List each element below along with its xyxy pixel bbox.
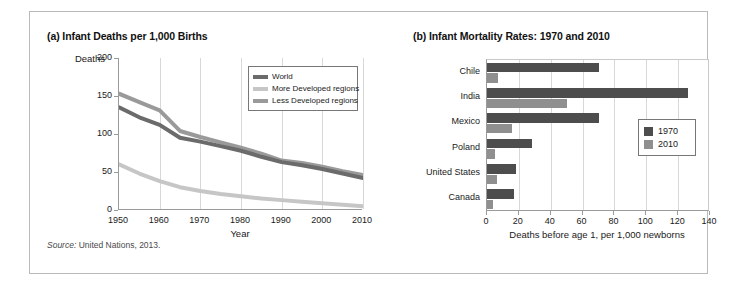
bar-category-label: United States xyxy=(394,167,480,177)
bar-category-label: Canada xyxy=(394,192,480,202)
legend-label: 2010 xyxy=(658,139,678,149)
bar-x-tick-label: 120 xyxy=(664,216,690,226)
bar-x-tick-label: 40 xyxy=(537,216,563,226)
legend-item: Less Developed regions xyxy=(253,95,353,106)
y-tick-label: 50 xyxy=(86,166,112,176)
bar-x-tick-label: 140 xyxy=(696,216,722,226)
x-axis-title: Year xyxy=(230,228,249,239)
panel-a-title: (a) Infant Deaths per 1,000 Births xyxy=(47,30,208,42)
y-tick-label: 200 xyxy=(86,52,112,62)
bar-category-label: Mexico xyxy=(394,116,480,126)
legend-label: 1970 xyxy=(658,126,678,136)
bar xyxy=(487,149,495,159)
bar-x-tick-mark xyxy=(645,211,646,215)
y-tick-label: 100 xyxy=(86,128,112,138)
legend-swatch-icon xyxy=(644,140,653,149)
legend-item: World xyxy=(253,71,353,82)
bar xyxy=(487,113,599,123)
bar xyxy=(487,189,514,199)
bar-x-tick-label: 100 xyxy=(632,216,658,226)
x-tick-label: 2000 xyxy=(304,215,338,225)
legend-item: 1970 xyxy=(644,125,690,137)
bar-x-tick-mark xyxy=(613,211,614,215)
legend-label: World xyxy=(272,72,293,81)
bar xyxy=(487,139,532,149)
x-tick-label: 1990 xyxy=(264,215,298,225)
source-label: Source: xyxy=(47,240,76,250)
figure-frame: (a) Infant Deaths per 1,000 Births Death… xyxy=(29,11,708,274)
bar xyxy=(487,88,688,98)
legend-swatch-icon xyxy=(253,75,268,79)
bar-x-tick-mark xyxy=(582,211,583,215)
y-tick-mark xyxy=(114,172,118,173)
bar-x-tick-label: 80 xyxy=(600,216,626,226)
bar-x-tick-mark xyxy=(518,211,519,215)
panel-b-title: (b) Infant Mortality Rates: 1970 and 201… xyxy=(413,30,610,42)
bar xyxy=(487,175,497,185)
bar-x-tick-label: 20 xyxy=(505,216,531,226)
source-value: United Nations, 2013. xyxy=(76,240,160,250)
bar-chart-legend: 19702010 xyxy=(638,119,696,156)
bar-x-axis-title: Deaths before age 1, per 1,000 newborns xyxy=(509,229,684,240)
legend-swatch-icon xyxy=(253,99,268,103)
y-tick-mark xyxy=(114,210,118,211)
line-chart-legend: WorldMore Developed regionsLess Develope… xyxy=(248,66,358,111)
bar-category-label: India xyxy=(394,91,480,101)
y-tick-mark xyxy=(114,134,118,135)
bar-x-tick-mark xyxy=(550,211,551,215)
bar xyxy=(487,124,512,134)
x-tick-label: 1960 xyxy=(142,215,176,225)
y-tick-label: 150 xyxy=(86,90,112,100)
bar xyxy=(487,99,567,109)
bar-x-tick-mark xyxy=(677,211,678,215)
bar xyxy=(487,63,599,73)
bar xyxy=(487,164,516,174)
y-tick-mark xyxy=(114,58,118,59)
legend-item: More Developed regions xyxy=(253,83,353,94)
bar-x-tick-label: 0 xyxy=(473,216,499,226)
x-tick-label: 1950 xyxy=(101,215,135,225)
legend-label: More Developed regions xyxy=(272,84,359,93)
legend-swatch-icon xyxy=(253,87,268,91)
bar xyxy=(487,73,498,83)
bar-x-tick-mark xyxy=(486,211,487,215)
legend-label: Less Developed regions xyxy=(272,96,358,105)
bar-x-tick-mark xyxy=(709,211,710,215)
bar-x-tick-label: 60 xyxy=(569,216,595,226)
bar-category-label: Poland xyxy=(394,142,480,152)
legend-item: 2010 xyxy=(644,138,690,150)
x-tick-label: 1970 xyxy=(182,215,216,225)
y-tick-mark xyxy=(114,96,118,97)
gridline-vertical xyxy=(363,58,364,209)
x-tick-label: 2010 xyxy=(345,215,379,225)
legend-swatch-icon xyxy=(644,127,653,136)
bar xyxy=(487,200,493,210)
x-tick-label: 1980 xyxy=(223,215,257,225)
bar-category-label: Chile xyxy=(394,66,480,76)
source-note: Source: United Nations, 2013. xyxy=(47,240,160,250)
y-tick-label: 0 xyxy=(86,204,112,214)
